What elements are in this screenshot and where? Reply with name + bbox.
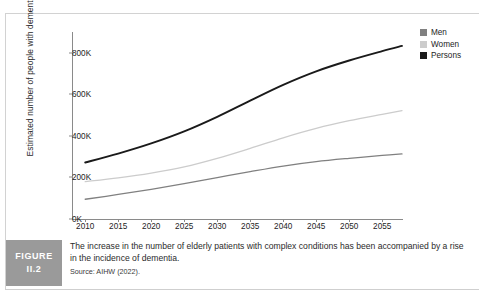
caption-source: Source: AIHW (2022). [70, 267, 470, 276]
figure-container: Estimated number of people with dementia… [0, 0, 484, 302]
legend-label: Men [431, 28, 447, 37]
caption-text-block: The increase in the number of elderly pa… [70, 241, 470, 276]
x-tick-mark [283, 219, 284, 222]
x-tick-mark [382, 219, 383, 222]
legend-swatch-icon [420, 29, 427, 36]
x-tick-label: 2025 [175, 222, 193, 231]
series-lines [72, 32, 402, 219]
frame-bottom-border [5, 289, 479, 290]
x-tick-mark [184, 219, 185, 222]
x-tick-mark [217, 219, 218, 222]
legend-item-persons[interactable]: Persons [420, 50, 461, 62]
x-tick-mark [250, 219, 251, 222]
x-tick-label: 2010 [76, 222, 94, 231]
y-axis-label: Estimated number of people with dementia [25, 0, 35, 160]
x-tick-label: 2035 [241, 222, 259, 231]
legend-swatch-icon [420, 52, 427, 59]
x-tick-mark [349, 219, 350, 222]
x-tick-label: 2020 [142, 222, 160, 231]
caption-description: The increase in the number of elderly pa… [70, 241, 470, 264]
legend-label: Persons [431, 51, 461, 60]
x-tick-label: 2015 [109, 222, 127, 231]
series-line-women [85, 111, 402, 182]
x-tick-label: 2055 [373, 222, 391, 231]
chart-legend: MenWomenPersons [420, 27, 461, 62]
legend-item-men[interactable]: Men [420, 27, 461, 39]
chart-area: Estimated number of people with dementia… [5, 14, 479, 232]
legend-item-women[interactable]: Women [420, 39, 461, 51]
x-tick-mark [85, 219, 86, 222]
series-line-persons [85, 46, 402, 163]
figure-badge-word: FIGURE [15, 250, 53, 263]
x-axis-line [72, 219, 403, 220]
legend-swatch-icon [420, 41, 427, 48]
x-tick-label: 2050 [340, 222, 358, 231]
x-tick-mark [151, 219, 152, 222]
x-tick-mark [118, 219, 119, 222]
x-tick-label: 2045 [307, 222, 325, 231]
plot-region [72, 32, 402, 219]
figure-badge-number: II.2 [27, 263, 42, 276]
legend-label: Women [431, 40, 459, 49]
figure-number-badge: FIGURE II.2 [6, 240, 62, 286]
x-tick-mark [316, 219, 317, 222]
series-line-men [85, 154, 402, 199]
figure-caption-bar: FIGURE II.2 The increase in the number o… [6, 240, 478, 288]
x-tick-label: 2040 [274, 222, 292, 231]
x-tick-label: 2030 [208, 222, 226, 231]
